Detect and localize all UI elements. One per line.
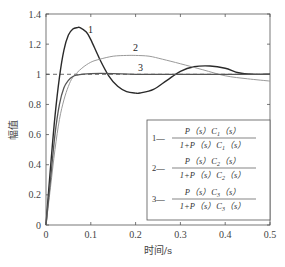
step-response-chart: 00.10.20.30.40.500.20.40.60.811.21.4 1 2… (0, 0, 285, 267)
curve-label-1: 1 (88, 24, 93, 35)
legend-numerator: P（s）C3（s） (184, 187, 241, 198)
y-tick-label: 0.8 (29, 99, 42, 110)
x-tick-label: 0.1 (85, 229, 98, 240)
legend-denominator: 1+P（s）C3（s） (180, 201, 246, 212)
y-tick-label: 0.2 (29, 189, 42, 200)
x-tick-label: 0.5 (264, 229, 277, 240)
y-tick-label: 1 (36, 69, 41, 80)
y-tick-label: 1.2 (29, 39, 42, 50)
y-tick-label: 0.4 (29, 159, 42, 170)
legend-id: 1— (152, 133, 165, 143)
x-tick-label: 0 (44, 229, 49, 240)
curve-label-2: 2 (133, 42, 138, 53)
x-tick-label: 0.3 (174, 229, 187, 240)
curve-label-3: 3 (138, 62, 143, 73)
y-tick-label: 0.6 (29, 129, 42, 140)
legend-id: 2— (152, 163, 165, 173)
y-tick-label: 1.4 (29, 9, 42, 20)
x-axis-label: 时间/s (144, 244, 173, 256)
legend-numerator: P（s）C1（s） (184, 126, 241, 137)
x-tick-label: 0.4 (219, 229, 232, 240)
legend-id: 3— (152, 194, 165, 204)
x-tick-label: 0.2 (129, 229, 142, 240)
legend-denominator: 1+P（s）C2（s） (180, 170, 246, 181)
legend-numerator: P（s）C2（s） (184, 156, 241, 167)
legend-denominator: 1+P（s）C1（s） (180, 140, 246, 151)
y-axis-label: 幅值 (7, 120, 19, 140)
y-tick-label: 0 (36, 220, 41, 231)
legend: 1—P（s）C1（s）1+P（s）C1（s）2—P（s）C2（s）1+P（s）C… (147, 120, 270, 220)
